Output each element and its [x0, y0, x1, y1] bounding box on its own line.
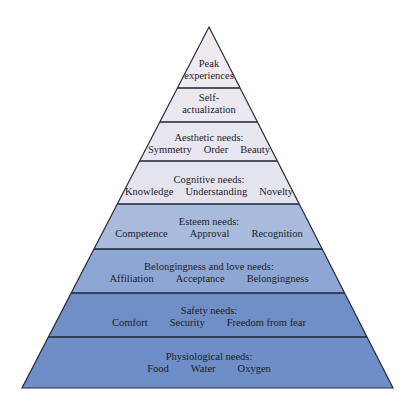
layer-item: Understanding	[185, 186, 247, 198]
layer-item: Oxygen	[238, 363, 271, 375]
layer-items: ComfortSecurityFreedom from fear	[112, 317, 306, 329]
layer-item: Affiliation	[110, 273, 154, 285]
layer-item: Water	[191, 363, 216, 375]
layer-label-cognitive-needs: Cognitive needs:KnowledgeUnderstandingNo…	[125, 174, 293, 198]
layer-item: Freedom from fear	[227, 317, 306, 329]
layer-item: Novelty	[259, 186, 293, 198]
layer-label-safety-needs: Safety needs:ComfortSecurityFreedom from…	[112, 305, 306, 329]
layer-title: Belongingness and love needs:	[110, 261, 309, 273]
layer-title: Physiological needs:	[147, 351, 271, 363]
layer-items: CompetenceApprovalRecognition	[115, 228, 302, 240]
layer-item: Order	[204, 144, 229, 156]
layer-title: actualization	[182, 104, 236, 116]
layer-item: Symmetry	[148, 144, 192, 156]
layer-title: Self-	[182, 92, 236, 104]
layer-item: Knowledge	[125, 186, 173, 198]
layer-item: Belongingness	[247, 273, 309, 285]
layer-item: Security	[170, 317, 205, 329]
layer-label-self-actualization: Self-actualization	[182, 92, 236, 116]
layer-items: KnowledgeUnderstandingNovelty	[125, 186, 293, 198]
layer-label-esteem-needs: Esteem needs:CompetenceApprovalRecogniti…	[115, 216, 302, 240]
layer-item: Recognition	[251, 228, 302, 240]
layer-label-physiological-needs: Physiological needs:FoodWaterOxygen	[147, 351, 271, 375]
layer-items: FoodWaterOxygen	[147, 363, 271, 375]
layer-label-peak-experiences: Peakexperiences	[184, 58, 234, 82]
layer-label-belongingness-and-love-needs: Belongingness and love needs:Affiliation…	[110, 261, 309, 285]
layer-item: Competence	[115, 228, 167, 240]
layer-items: SymmetryOrderBeauty	[148, 144, 270, 156]
layer-title: Safety needs:	[112, 305, 306, 317]
layer-title: Cognitive needs:	[125, 174, 293, 186]
layer-items: AffiliationAcceptanceBelongingness	[110, 273, 309, 285]
layer-item: Acceptance	[176, 273, 225, 285]
layer-title: Peak	[184, 58, 234, 70]
layer-item: Comfort	[112, 317, 148, 329]
layer-item: Beauty	[240, 144, 270, 156]
layer-label-aesthetic-needs: Aesthetic needs:SymmetryOrderBeauty	[148, 132, 270, 156]
layer-title: Esteem needs:	[115, 216, 302, 228]
layer-title: Aesthetic needs:	[148, 132, 270, 144]
layer-item: Food	[147, 363, 169, 375]
layer-title: experiences	[184, 70, 234, 82]
layer-item: Approval	[190, 228, 230, 240]
